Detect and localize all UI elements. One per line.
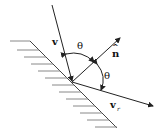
normal-label: n — [112, 49, 119, 59]
reflection-diagram: v θ ^ n θ v r — [0, 0, 163, 140]
reflected-angle-arc — [97, 64, 103, 90]
reflected-velocity-label: v — [110, 100, 116, 110]
reflected-subscript-label: r — [117, 106, 120, 112]
diagram-graphics — [0, 0, 163, 140]
reflected-angle-label: θ — [104, 71, 110, 81]
surface-hatching — [10, 41, 117, 127]
surface — [10, 41, 117, 128]
incident-angle-arc — [66, 53, 94, 62]
incident-velocity-label: v — [52, 37, 58, 47]
incident-angle-label: θ — [77, 41, 83, 51]
